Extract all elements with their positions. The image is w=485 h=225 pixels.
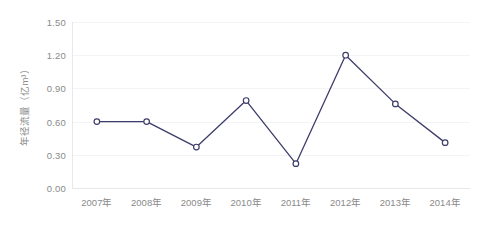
series-line-runoff — [97, 55, 445, 163]
line-chart: 1.501.200.900.600.300.00 年径流量（亿m³） 2007年… — [0, 0, 485, 225]
data-point-2012年 — [343, 52, 349, 58]
data-point-2013年 — [393, 101, 399, 107]
data-point-2010年 — [243, 98, 249, 104]
data-series-layer — [0, 0, 485, 225]
data-point-2008年 — [144, 119, 150, 125]
data-point-2009年 — [194, 144, 200, 150]
data-point-2011年 — [293, 161, 299, 167]
data-point-2014年 — [442, 140, 448, 146]
data-point-2007年 — [94, 119, 100, 125]
data-point-markers — [94, 52, 448, 166]
